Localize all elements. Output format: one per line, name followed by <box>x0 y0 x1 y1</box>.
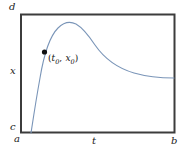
x-axis-label: t <box>92 136 96 146</box>
plot-canvas <box>0 0 190 156</box>
x-axis-max-label: b <box>171 136 177 146</box>
x-axis-min-label: a <box>14 134 20 144</box>
plot-frame <box>21 15 175 133</box>
y-axis-label: x <box>10 66 16 76</box>
annotation-close-paren: ) <box>75 53 79 63</box>
y-axis-min-label: c <box>10 122 16 132</box>
annotation-separator: , <box>59 53 62 63</box>
figure-container: d x c a t b (t0, x0) <box>0 0 190 156</box>
y-axis-max-label: d <box>9 2 15 12</box>
initial-condition-annotation: (t0, x0) <box>48 54 78 65</box>
initial-condition-point <box>42 49 47 54</box>
